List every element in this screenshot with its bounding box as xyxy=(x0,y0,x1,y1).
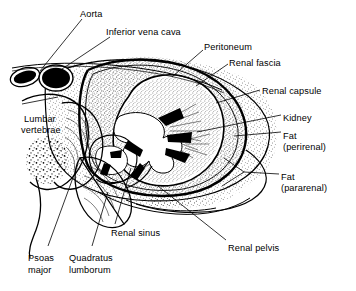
label-fat-pararenal: Fat xyxy=(281,172,295,183)
leader-quadratus-lumborum xyxy=(92,192,108,246)
label-lumbar-vertebrae-2: vertebrae xyxy=(21,125,61,136)
label-quadratus-lumborum-2: lumborum xyxy=(69,265,111,276)
label-psoas-major: Psoas xyxy=(28,253,54,264)
label-renal-fascia: Renal fascia xyxy=(229,58,281,69)
label-quadratus-lumborum: Quadratus xyxy=(69,253,113,264)
label-psoas-major-2: major xyxy=(28,265,51,276)
label-aorta: Aorta xyxy=(80,9,102,20)
label-renal-sinus: Renal sinus xyxy=(111,228,160,239)
label-fat-perirenal-qualifier: (perirenal) xyxy=(283,142,326,153)
label-fat-perirenal: Fat xyxy=(283,131,297,142)
label-inferior-vena-cava: Inferior vena cava xyxy=(106,27,181,38)
label-renal-capsule: Renal capsule xyxy=(262,86,322,97)
label-kidney: Kidney xyxy=(283,113,312,124)
label-peritoneum: Peritoneum xyxy=(204,42,252,53)
label-fat-pararenal-qualifier: (pararenal) xyxy=(281,183,327,194)
inferior-vena-cava-vessel xyxy=(39,65,73,91)
label-renal-pelvis: Renal pelvis xyxy=(228,243,279,254)
label-lumbar-vertebrae: Lumbar xyxy=(24,114,56,125)
